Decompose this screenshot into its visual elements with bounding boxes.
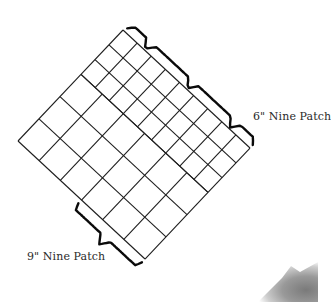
six-inch-nine-patch-label: 6" Nine Patch	[253, 110, 331, 123]
quilt-grid	[18, 30, 250, 259]
nine-inch-nine-patch-label: 9" Nine Patch	[27, 250, 105, 263]
